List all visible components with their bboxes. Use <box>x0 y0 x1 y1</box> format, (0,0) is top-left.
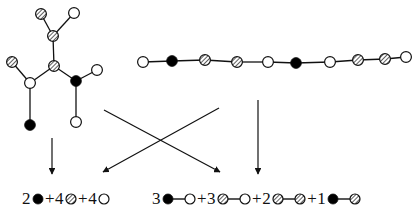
graph-node-open-circle <box>92 65 103 76</box>
glyph-filled-circle <box>32 193 44 205</box>
glyph-hatched-circle <box>65 193 77 205</box>
graph-node-open-circle <box>138 57 149 68</box>
formula-plus: + <box>252 189 262 209</box>
graph-node-open-circle <box>263 57 274 68</box>
graph-node-filled-circle <box>291 58 302 69</box>
glyph-open-circle <box>98 193 110 205</box>
formula-plus: + <box>197 189 207 209</box>
formula-coefficient: 3 <box>207 189 216 209</box>
transform-arrows-layer <box>52 100 258 174</box>
graph-node-hatched-circle <box>36 9 47 20</box>
formula-coefficient: 4 <box>55 189 64 209</box>
glyph-bond-hatched-circle-open-circle <box>217 193 251 205</box>
glyph-bond-hatched-circle-hatched-circle <box>272 193 306 205</box>
graph-node-hatched-circle <box>49 61 60 72</box>
graph-node-hatched-circle <box>200 55 211 66</box>
vertex-count-formula: 2 + 4 + 4 <box>22 188 111 209</box>
formula-plus: + <box>45 189 55 209</box>
graph-node-filled-circle <box>71 76 82 87</box>
graph-node-hatched-circle <box>353 55 364 66</box>
glyph-bond-filled-circle-open-circle <box>162 193 196 205</box>
formula-coefficient: 2 <box>262 189 271 209</box>
graph-node-open-circle <box>71 117 82 128</box>
formula-plus: + <box>78 189 88 209</box>
formula-coefficient: 1 <box>317 189 326 209</box>
graph-edges-layer <box>12 13 406 125</box>
graph-node-hatched-circle <box>232 57 243 68</box>
graph-node-open-circle <box>325 57 336 68</box>
graph-node-open-circle <box>25 78 36 89</box>
formula-coefficient: 4 <box>88 189 97 209</box>
formula-plus: + <box>307 189 317 209</box>
graph-node-hatched-circle <box>380 54 391 65</box>
edge-count-formula: 3+3+2+1 <box>152 188 362 209</box>
formula-coefficient: 2 <box>22 189 31 209</box>
formula-coefficient: 3 <box>152 189 161 209</box>
graph-node-filled-circle <box>167 56 178 67</box>
arrow-tree-to-edges <box>104 110 220 172</box>
graph-node-hatched-circle <box>48 31 59 42</box>
graph-node-open-circle <box>69 8 80 19</box>
glyph-bond-filled-circle-hatched-circle <box>327 193 361 205</box>
graph-nodes-layer <box>7 8 412 131</box>
graph-node-hatched-circle <box>7 57 18 68</box>
graph-node-filled-circle <box>25 120 36 131</box>
graph-node-open-circle <box>401 52 412 63</box>
